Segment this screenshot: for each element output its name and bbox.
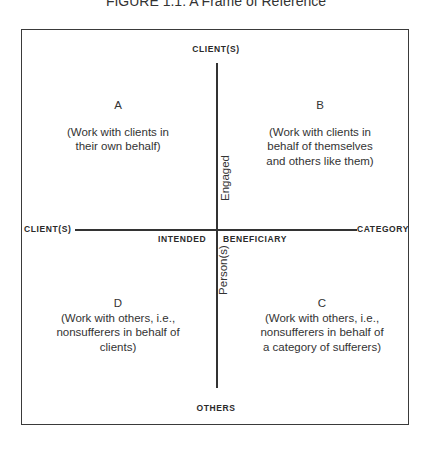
quadrant-c: C (Work with others, i.e., nonsufferers … — [236, 296, 408, 354]
figure-title: FIGURE 1.1: A Frame of Reference — [0, 0, 432, 9]
quadrant-a: A (Work with clients in their own behalf… — [38, 98, 198, 154]
engaged-label: Engaged — [219, 153, 231, 203]
persons-label: Person(s) — [217, 240, 229, 300]
quadrant-b: B (Work with clients in behalf of themse… — [240, 98, 400, 168]
axis-top-label: CLIENT(S) — [0, 44, 432, 54]
vertical-axis-line — [216, 63, 218, 388]
axis-bottom-label: OTHERS — [0, 403, 432, 413]
quadrant-d-letter: D — [32, 296, 204, 311]
horizontal-axis-line — [75, 229, 357, 231]
quadrant-b-letter: B — [240, 98, 400, 113]
beneficiary-label: BENEFICIARY — [223, 234, 287, 244]
intended-label: INTENDED — [158, 234, 206, 244]
axis-left-label: CLIENT(S) — [24, 224, 71, 234]
quadrant-c-letter: C — [236, 296, 408, 311]
quadrant-a-letter: A — [38, 98, 198, 113]
diagram-frame — [21, 29, 409, 425]
axis-right-label: CATEGORY — [357, 224, 409, 234]
quadrant-d: D (Work with others, i.e., nonsufferers … — [32, 296, 204, 354]
